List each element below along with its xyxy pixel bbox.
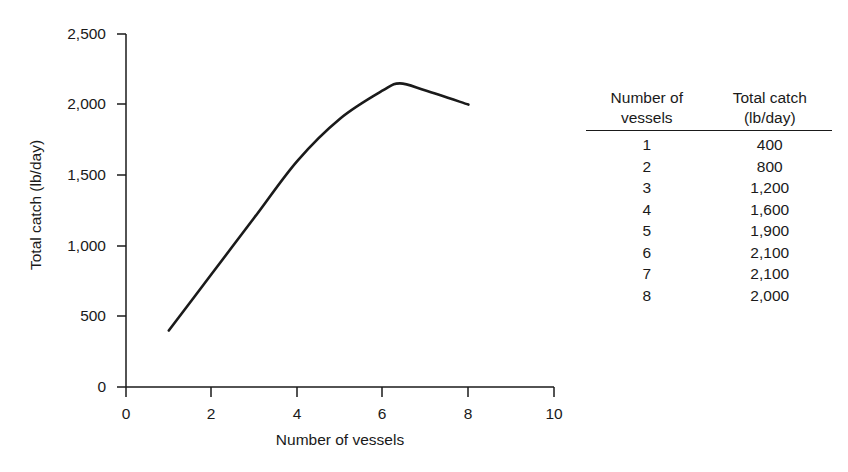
table-row: 41,600: [586, 200, 832, 222]
cell-total-catch: 2,100: [708, 264, 832, 286]
table-row: 62,100: [586, 243, 832, 265]
total-catch-curve: [169, 83, 469, 330]
table-header: Number of Total catch vessels (lb/day): [586, 88, 832, 131]
cell-vessels: 8: [586, 286, 708, 308]
y-axis-ticks: [117, 34, 126, 387]
cell-total-catch: 800: [708, 157, 832, 179]
cell-total-catch: 2,000: [708, 286, 832, 308]
cell-vessels: 1: [586, 131, 708, 157]
catch-data-table: Number of Total catch vessels (lb/day) 1…: [586, 88, 832, 307]
y-tick-label-2500: 2,500: [28, 26, 106, 42]
cell-total-catch: 1,900: [708, 221, 832, 243]
x-tick-label-0: 0: [122, 406, 131, 422]
table-row: 31,200: [586, 178, 832, 200]
cell-vessels: 5: [586, 221, 708, 243]
figure-root: 2,500 2,000 1,500 1,000 500 0 0 2 4 6 8 …: [0, 0, 848, 472]
x-tick-label-8: 8: [464, 406, 473, 422]
cell-vessels: 7: [586, 264, 708, 286]
table-row: 82,000: [586, 286, 832, 308]
x-axis-title: Number of vessels: [126, 431, 554, 449]
y-axis-title: Total catch (lb/day): [27, 105, 45, 305]
cell-total-catch: 2,100: [708, 243, 832, 265]
x-tick-label-6: 6: [378, 406, 387, 422]
table-header-catch-line1: Total catch: [708, 88, 832, 108]
x-tick-label-4: 4: [293, 406, 302, 422]
table-row: 72,100: [586, 264, 832, 286]
cell-vessels: 4: [586, 200, 708, 222]
table-row: 2800: [586, 157, 832, 179]
x-tick-label-2: 2: [207, 406, 216, 422]
cell-vessels: 2: [586, 157, 708, 179]
cell-vessels: 6: [586, 243, 708, 265]
table-header-catch-line2: (lb/day): [708, 108, 832, 131]
plot-canvas: [0, 0, 560, 472]
cell-total-catch: 1,200: [708, 178, 832, 200]
chart-panel: 2,500 2,000 1,500 1,000 500 0 0 2 4 6 8 …: [0, 0, 560, 472]
y-tick-label-500: 500: [28, 308, 106, 324]
table-header-vessels-line2: vessels: [586, 108, 708, 131]
table-header-vessels-line1: Number of: [586, 88, 708, 108]
table-body: 1400280031,20041,60051,90062,10072,10082…: [586, 131, 832, 307]
x-axis-ticks: [126, 387, 554, 397]
y-tick-label-0: 0: [28, 379, 106, 395]
cell-vessels: 3: [586, 178, 708, 200]
x-tick-label-10: 10: [545, 406, 562, 422]
cell-total-catch: 1,600: [708, 200, 832, 222]
table-row: 51,900: [586, 221, 832, 243]
table-row: 1400: [586, 131, 832, 157]
cell-total-catch: 400: [708, 131, 832, 157]
